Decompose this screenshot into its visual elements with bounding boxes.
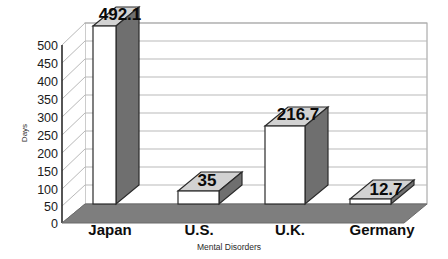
y-tick-50: 50 (44, 200, 58, 214)
bar-group-uk[interactable]: 216.7 (265, 105, 328, 204)
y-tick-150: 150 (37, 165, 58, 179)
plot-left-wall (62, 23, 85, 223)
value-label-us: 35 (198, 171, 217, 190)
bar-side-japan (116, 7, 139, 204)
bar-front-japan (93, 26, 116, 204)
value-label-japan: 492.1 (99, 5, 142, 24)
y-tick-500: 500 (37, 39, 58, 53)
value-label-germany: 12.7 (369, 180, 402, 199)
bar-front-germany (350, 199, 391, 204)
y-axis-title: Days (20, 124, 29, 142)
category-label-germany: Germany (349, 221, 415, 238)
category-label-us: U.S. (184, 221, 213, 238)
bar-group-japan[interactable]: 492.1 (93, 5, 141, 204)
chart-canvas: 500 450 400 350 300 250 200 150 100 50 0… (0, 0, 448, 259)
y-tick-100: 100 (37, 183, 58, 197)
bar-front-uk (265, 126, 305, 204)
y-tick-350: 350 (37, 93, 58, 107)
y-tick-450: 450 (37, 57, 58, 71)
y-tick-300: 300 (37, 111, 58, 125)
y-tick-250: 250 (37, 129, 58, 143)
x-axis-title: Mental Disorders (197, 242, 261, 252)
y-tick-0: 0 (51, 217, 58, 231)
y-tick-400: 400 (37, 75, 58, 89)
category-label-japan: Japan (88, 221, 131, 238)
bar-front-us (178, 191, 219, 204)
category-label-uk: U.K. (275, 221, 305, 238)
y-tick-200: 200 (37, 147, 58, 161)
value-label-uk: 216.7 (277, 105, 320, 124)
bar-chart: 500 450 400 350 300 250 200 150 100 50 0… (0, 0, 448, 259)
